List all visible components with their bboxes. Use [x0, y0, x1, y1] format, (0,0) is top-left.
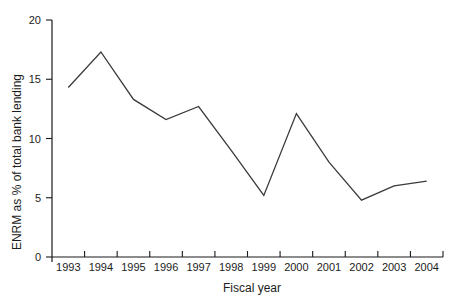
- x-tick-label: 2002: [349, 261, 373, 273]
- chart-canvas: 0510152019931994199519961997199819992000…: [0, 0, 456, 307]
- y-tick-label: 15: [29, 73, 41, 85]
- x-tick-label: 2000: [284, 261, 308, 273]
- data-series-line: [68, 52, 426, 200]
- y-tick-label: 0: [35, 251, 41, 263]
- y-tick-label: 5: [35, 192, 41, 204]
- x-tick-label: 1994: [89, 261, 113, 273]
- x-axis-title: Fiscal year: [223, 281, 281, 295]
- x-tick-label: 1997: [186, 261, 210, 273]
- x-tick-label: 1993: [56, 261, 80, 273]
- x-tick-label: 1998: [219, 261, 243, 273]
- enrm-lending-line-chart: 0510152019931994199519961997199819992000…: [0, 0, 456, 307]
- x-tick-label: 2003: [382, 261, 406, 273]
- y-tick-label: 20: [29, 14, 41, 26]
- x-tick-label: 1996: [154, 261, 178, 273]
- x-tick-label: 1999: [252, 261, 276, 273]
- x-tick-label: 2004: [414, 261, 438, 273]
- x-tick-label: 1995: [121, 261, 145, 273]
- y-axis-title: ENRM as % of total bank lending: [10, 74, 24, 250]
- y-tick-label: 10: [29, 133, 41, 145]
- x-tick-label: 2001: [317, 261, 341, 273]
